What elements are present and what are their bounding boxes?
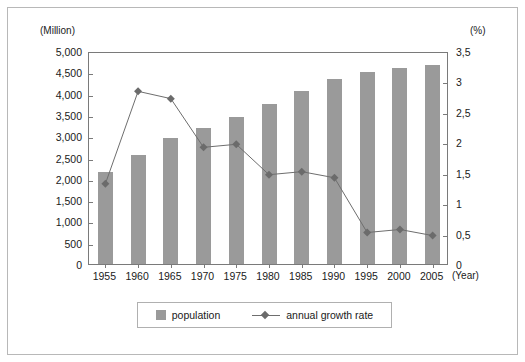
x-tick-label-2000: 2000 <box>387 270 410 282</box>
right-axis-ticks: 00,511,522,533,5 <box>456 52 502 265</box>
left-tick-mark-1000 <box>89 223 93 224</box>
growth-rate-marker-1990 <box>330 174 338 182</box>
left-tick-mark-1500 <box>89 202 93 203</box>
x-tick-label-1985: 1985 <box>289 270 312 282</box>
left-tick-mark-2000 <box>89 181 93 182</box>
left-tick-mark-4500 <box>89 74 93 75</box>
left-tick-label-0: 0 <box>76 259 82 271</box>
growth-rate-line-layer <box>89 53 449 266</box>
left-tick-label-3500: 3,500 <box>56 110 82 122</box>
left-tick-mark-2500 <box>89 160 93 161</box>
left-tick-mark-4000 <box>89 96 93 97</box>
bar-swatch-icon <box>156 310 166 320</box>
left-tick-label-4000: 4,000 <box>56 89 82 101</box>
x-tick-label-1975: 1975 <box>224 270 247 282</box>
right-tick-mark-3 <box>443 83 447 84</box>
left-tick-label-1000: 1,000 <box>56 216 82 228</box>
left-tick-label-5000: 5,000 <box>56 46 82 58</box>
right-tick-mark-2-5 <box>443 114 447 115</box>
growth-rate-marker-1965 <box>167 95 175 103</box>
left-axis-ticks: 05001,0001,5002,0002,5003,0003,5004,0004… <box>28 52 82 265</box>
growth-rate-marker-2005 <box>429 232 437 240</box>
right-tick-mark-2 <box>443 144 447 145</box>
right-axis-unit-label: (%) <box>470 25 486 36</box>
x-tick-label-1980: 1980 <box>256 270 279 282</box>
left-tick-label-3000: 3,000 <box>56 131 82 143</box>
legend-label-growth-rate: annual growth rate <box>286 309 373 321</box>
growth-rate-marker-1955 <box>101 180 109 188</box>
x-tick-label-1960: 1960 <box>125 270 148 282</box>
left-tick-mark-500 <box>89 245 93 246</box>
x-tick-label-2005: 2005 <box>420 270 443 282</box>
x-tick-label-1955: 1955 <box>93 270 116 282</box>
left-tick-label-1500: 1,500 <box>56 195 82 207</box>
line-marker-icon <box>252 310 280 320</box>
x-axis-unit-label: (Year) <box>452 270 479 281</box>
right-tick-label-3: 3 <box>456 76 462 88</box>
growth-rate-line <box>105 91 432 235</box>
legend-item-population: population <box>156 309 220 321</box>
right-tick-label-2: 2 <box>456 137 462 149</box>
right-tick-mark-0-5 <box>443 236 447 237</box>
chart-figure: (Million) (%) 05001,0001,5002,0002,5003,… <box>0 0 525 362</box>
growth-rate-marker-1995 <box>363 229 371 237</box>
growth-rate-marker-2000 <box>396 225 404 233</box>
right-tick-label-3-5: 3,5 <box>456 46 471 58</box>
x-tick-label-1970: 1970 <box>191 270 214 282</box>
legend-label-population: population <box>172 309 220 321</box>
x-tick-label-1965: 1965 <box>158 270 181 282</box>
right-tick-label-0-5: 0,5 <box>456 229 471 241</box>
x-axis-ticks: 1955196019651970197519801985199019952000… <box>88 268 448 286</box>
left-tick-label-500: 500 <box>64 238 82 250</box>
x-tick-label-1990: 1990 <box>322 270 345 282</box>
right-tick-label-2-5: 2,5 <box>456 107 471 119</box>
right-tick-mark-1 <box>443 205 447 206</box>
legend-item-growth-rate: annual growth rate <box>252 309 373 321</box>
plot-area <box>88 52 448 265</box>
diamond-marker-icon <box>261 311 269 319</box>
left-tick-label-2000: 2,000 <box>56 174 82 186</box>
growth-rate-marker-1960 <box>134 87 142 95</box>
chart-legend: population annual growth rate <box>137 302 392 328</box>
plot-inner <box>89 53 447 264</box>
left-tick-label-4500: 4,500 <box>56 67 82 79</box>
right-tick-label-1: 1 <box>456 198 462 210</box>
left-tick-mark-3000 <box>89 138 93 139</box>
growth-rate-marker-1970 <box>200 143 208 151</box>
x-tick-label-1995: 1995 <box>354 270 377 282</box>
left-tick-label-2500: 2,500 <box>56 153 82 165</box>
right-tick-mark-1-5 <box>443 175 447 176</box>
right-tick-label-1-5: 1,5 <box>456 168 471 180</box>
growth-rate-marker-1985 <box>298 168 306 176</box>
left-tick-mark-3500 <box>89 117 93 118</box>
left-axis-unit-label: (Million) <box>40 25 75 36</box>
